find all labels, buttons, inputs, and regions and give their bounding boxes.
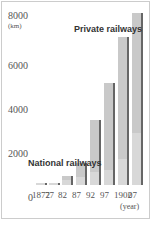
bar-national [104,170,113,185]
bar-national [90,172,99,185]
bar-national [118,159,127,185]
chart: 8000 (km) 6000 4000 2000 0 Private railw… [1,1,150,219]
bar-92 [90,120,101,185]
bar-national [132,133,141,185]
bar-1872 [36,183,47,185]
y-tick-8000: 8000 [8,10,28,21]
bar-77 [49,183,60,185]
y-tick-2000: 2000 [8,148,28,159]
x-tick: 92 [86,190,95,200]
x-unit: (year) [120,202,139,211]
y-tick-6000: 6000 [8,60,28,71]
private-label: Private railways [74,24,142,34]
x-tick: 07 [128,190,137,200]
y-unit: (km) [8,22,22,30]
x-tick: 77 [45,190,54,200]
x-tick: 97 [100,190,109,200]
bar-national [76,177,85,185]
bar-national [49,183,58,185]
x-tick: 82 [58,190,67,200]
bar-national [62,180,71,185]
bar-1902 [118,37,129,185]
y-tick-4000: 4000 [8,104,28,115]
bar-national [36,183,45,185]
national-label: National railways [28,158,102,168]
bar-82 [62,176,73,185]
x-tick: 87 [72,190,81,200]
bar-07 [132,13,143,185]
bar-97 [104,83,115,185]
